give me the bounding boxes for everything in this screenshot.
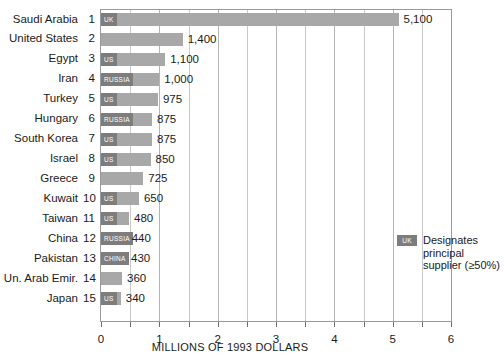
category-rank: 2: [83, 32, 95, 44]
x-axis-tick: [218, 322, 219, 327]
category-rank: 10: [83, 192, 95, 204]
bar: [101, 272, 122, 285]
category-label: Japan: [47, 292, 78, 304]
gridline: [247, 10, 248, 321]
supplier-tag: US: [101, 192, 117, 205]
category-rank: 5: [83, 92, 95, 104]
x-axis-tick: [305, 322, 306, 327]
bar-value-label: 360: [127, 272, 146, 285]
category-rank: 8: [83, 152, 95, 164]
category-rank: 12: [83, 232, 95, 244]
gridline: [305, 10, 306, 321]
category-label: Taiwan: [42, 212, 78, 224]
category-rank: 6: [83, 112, 95, 124]
category-rank: 14: [83, 272, 95, 284]
supplier-tag: US: [101, 292, 117, 305]
supplier-tag: RUSSIA: [101, 113, 133, 126]
supplier-tag: CHINA: [101, 252, 129, 265]
bar-value-label: 650: [144, 192, 163, 205]
bar-value-label: 430: [131, 252, 150, 265]
bar-value-label: 1,000: [164, 73, 193, 86]
category-rank: 11: [83, 212, 95, 224]
category-rank: 13: [83, 252, 95, 264]
category-label: Un. Arab Emir.: [4, 272, 78, 284]
bar-value-label: 875: [157, 133, 176, 146]
x-axis-tick: [393, 322, 394, 327]
legend-swatch-icon: UK: [397, 235, 417, 246]
gridline: [364, 10, 365, 321]
x-axis-title: MILLIONS OF 1993 DOLLARS: [0, 341, 460, 353]
x-axis-tick: [276, 322, 277, 327]
supplier-tag: RUSSIA: [101, 73, 133, 86]
category-rank: 1: [83, 13, 95, 25]
gridline: [276, 10, 277, 321]
bar-value-label: 850: [156, 153, 175, 166]
category-rank: 9: [83, 172, 95, 184]
bar-value-label: 340: [126, 292, 145, 305]
category-label: Kuwait: [43, 192, 78, 204]
x-axis-tick: [159, 322, 160, 327]
category-label: Iran: [58, 72, 78, 84]
category-label: Israel: [50, 152, 78, 164]
supplier-tag: RUSSIA: [101, 232, 133, 245]
category-label: South Korea: [14, 132, 78, 144]
gridline: [334, 10, 335, 321]
bar-value-label: 480: [134, 212, 153, 225]
gridline: [393, 10, 394, 321]
bar: [101, 33, 183, 46]
category-label: Hungary: [35, 112, 78, 124]
supplier-tag: UK: [101, 13, 117, 26]
category-label: China: [48, 232, 78, 244]
bar-value-label: 975: [163, 93, 182, 106]
bar-value-label: 5,100: [404, 13, 433, 26]
bar: [101, 172, 143, 185]
bar-value-label: 1,100: [170, 53, 199, 66]
category-label: Greece: [40, 172, 78, 184]
supplier-tag: US: [101, 153, 117, 166]
category-rank: 15: [83, 292, 95, 304]
x-axis-tick: [189, 322, 190, 327]
category-rank: 3: [83, 52, 95, 64]
supplier-tag: US: [101, 133, 117, 146]
plot-area: UK5,1001,400US1,100RUSSIA1,000US975RUSSI…: [100, 9, 452, 322]
x-axis-tick: [364, 322, 365, 327]
gridline: [422, 10, 423, 321]
supplier-tag: US: [101, 53, 117, 66]
x-axis-tick: [101, 322, 102, 327]
category-label: United States: [9, 32, 78, 44]
supplier-tag: US: [101, 93, 117, 106]
category-rank: 7: [83, 132, 95, 144]
bar-value-label: 725: [148, 172, 167, 185]
bar: [101, 13, 399, 26]
x-axis-tick: [451, 322, 452, 327]
bar-value-label: 875: [157, 113, 176, 126]
category-rank: 4: [83, 72, 95, 84]
x-axis-tick: [130, 322, 131, 327]
bar-value-label: 1,400: [188, 33, 217, 46]
x-axis-tick: [247, 322, 248, 327]
category-label: Saudi Arabia: [13, 13, 78, 25]
category-label: Egypt: [49, 52, 78, 64]
supplier-tag: US: [101, 212, 117, 225]
category-label: Pakistan: [34, 252, 78, 264]
x-axis-tick: [422, 322, 423, 327]
gridline: [218, 10, 219, 321]
legend: UKDesignates principal supplier (≥50%): [397, 234, 504, 272]
bar-value-label: 440: [132, 232, 151, 245]
category-label: Turkey: [43, 92, 78, 104]
x-axis-tick: [334, 322, 335, 327]
legend-text: Designates principal supplier (≥50%): [423, 234, 504, 272]
